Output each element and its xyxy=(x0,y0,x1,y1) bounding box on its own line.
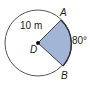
angle-label: 80° xyxy=(72,36,87,46)
radius-label: 10 m xyxy=(20,21,42,31)
point-b-label: B xyxy=(61,71,68,81)
point-a-label: A xyxy=(60,8,67,18)
center-d-label: D xyxy=(30,45,37,55)
